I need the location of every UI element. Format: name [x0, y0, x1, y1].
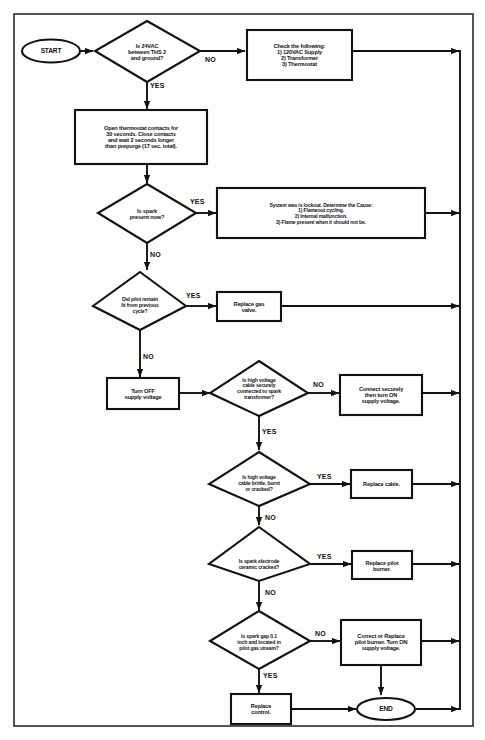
node-check-following[interactable]	[247, 30, 352, 80]
node-replace-control[interactable]	[231, 694, 291, 724]
node-replace-gas-valve[interactable]	[217, 292, 281, 321]
node-replace-pilot-burner[interactable]	[352, 551, 412, 579]
node-q-spark-gap[interactable]	[210, 611, 310, 669]
flowchart-svg	[0, 0, 485, 740]
node-correct-or-replace[interactable]	[341, 620, 421, 665]
flowchart-canvas: START Is 24VAC between THS 2 and ground?…	[0, 0, 485, 740]
node-q-ceramic-cracked[interactable]	[209, 527, 310, 581]
node-q-cable-brittle[interactable]	[209, 452, 310, 506]
node-q-pilot-remain[interactable]	[93, 272, 186, 330]
node-q-spark-now[interactable]	[98, 184, 196, 243]
node-q-24vac[interactable]	[95, 21, 200, 82]
node-turn-off-supply[interactable]	[107, 378, 179, 409]
node-start[interactable]	[22, 40, 80, 63]
node-end[interactable]	[357, 698, 415, 720]
node-lockout[interactable]	[217, 188, 425, 238]
node-q-cable-connected[interactable]	[210, 361, 308, 416]
node-open-thermostat[interactable]	[75, 110, 207, 164]
node-replace-cable[interactable]	[351, 470, 412, 498]
node-connect-securely[interactable]	[340, 375, 422, 415]
